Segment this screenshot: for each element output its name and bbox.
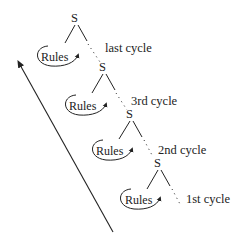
- cycle-group-last: S Rules last cycle: [37, 11, 152, 66]
- cycle-label: 1st cycle: [186, 192, 231, 206]
- s-node: S: [99, 60, 106, 74]
- cycle-group-3rd: S Rules 3rd cycle: [65, 60, 177, 115]
- rules-label: Rules: [96, 144, 124, 158]
- s-node: S: [71, 11, 78, 25]
- cycle-label: 3rd cycle: [131, 94, 178, 108]
- rules-label: Rules: [125, 193, 153, 207]
- rules-label: Rules: [41, 50, 69, 64]
- rules-label: Rules: [69, 99, 97, 113]
- cycle-derivation-diagram: S Rules last cycle S Rules 3rd cycle S R…: [0, 0, 238, 239]
- s-node: S: [126, 107, 133, 121]
- cycle-label: 2nd cycle: [158, 143, 207, 157]
- cycle-label: last cycle: [105, 41, 152, 55]
- s-node: S: [154, 156, 161, 170]
- cycle-group-1st: S Rules 1st cycle: [120, 156, 230, 209]
- cycle-group-2nd: S Rules 2nd cycle: [92, 107, 206, 160]
